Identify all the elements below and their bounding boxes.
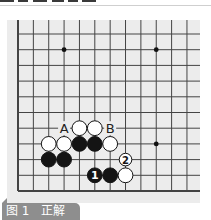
white-stone-icon <box>87 121 102 136</box>
mark-label-a: A <box>60 121 69 136</box>
white-stone-icon <box>118 168 133 183</box>
star-point-icon <box>62 47 67 52</box>
move-number-2: 2 <box>122 155 129 166</box>
white-stone-icon <box>103 137 118 152</box>
black-stone-icon <box>72 137 87 152</box>
white-stone-icon <box>41 137 56 152</box>
black-stone-icon <box>87 137 102 152</box>
mark-label-b: B <box>106 121 115 136</box>
go-board-grid: AB12 <box>0 0 211 220</box>
star-point-icon <box>154 47 159 52</box>
black-stone-icon <box>103 168 118 183</box>
move-number-1: 1 <box>91 169 99 182</box>
figure-caption: 图 1 正解 <box>2 203 80 220</box>
white-stone-icon <box>72 121 87 136</box>
black-stone-icon <box>41 152 56 167</box>
white-stone-icon <box>57 137 72 152</box>
black-stone-icon <box>57 152 72 167</box>
star-point-icon <box>154 142 159 147</box>
